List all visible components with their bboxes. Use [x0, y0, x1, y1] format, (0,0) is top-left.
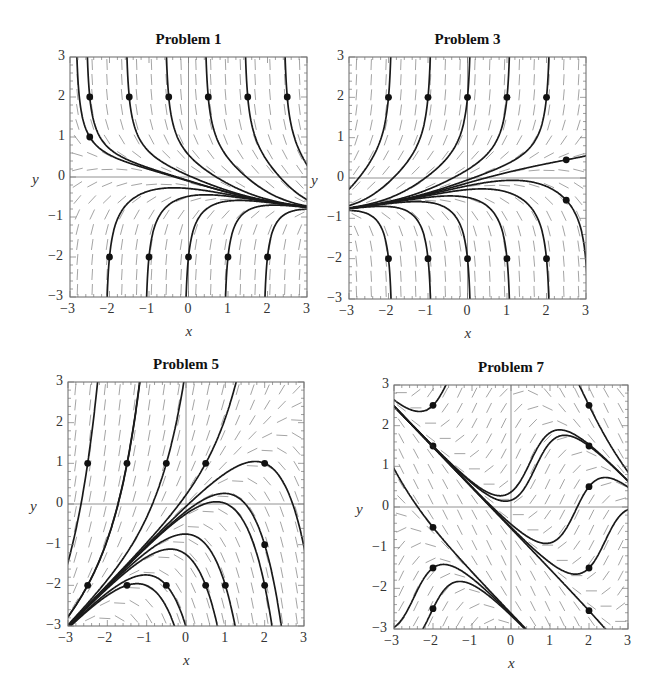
- slope-segment: [412, 389, 421, 396]
- slope-segment: [545, 479, 550, 489]
- slope-segment: [587, 572, 596, 579]
- initial-point: [430, 402, 437, 409]
- slope-segment: [399, 601, 404, 611]
- initial-point: [586, 402, 593, 409]
- slope-segment: [500, 389, 508, 397]
- slope-segment: [558, 450, 566, 458]
- slope-segment: [559, 404, 566, 412]
- slope-segment: [530, 617, 536, 626]
- slope-segment: [397, 495, 405, 503]
- slope-segment: [545, 449, 551, 458]
- slope-segment: [398, 419, 404, 428]
- slope-segment: [572, 452, 583, 455]
- slope-segment: [413, 449, 418, 459]
- slope-segment: [516, 586, 521, 596]
- slope-segment: [501, 586, 507, 595]
- slope-segment: [574, 541, 580, 550]
- y-tick-label: 1: [382, 457, 389, 473]
- slope-segment: [530, 495, 536, 504]
- slope-segment: [528, 390, 538, 395]
- slope-segment: [426, 558, 436, 563]
- slope-segment: [443, 479, 448, 489]
- slope-segment: [472, 540, 477, 550]
- slope-segment: [529, 511, 538, 518]
- slope-segment: [542, 422, 553, 425]
- slope-segment: [602, 495, 610, 503]
- slope-segment: [574, 525, 579, 535]
- slope-segment: [498, 620, 509, 623]
- slope-segment: [530, 571, 535, 581]
- slope-segment: [516, 449, 521, 459]
- slope-segment: [455, 588, 465, 593]
- slope-segment: [516, 556, 521, 566]
- slope-segment: [589, 495, 595, 504]
- slope-segment: [573, 465, 581, 473]
- x-tick-label: −2: [423, 633, 438, 649]
- slope-segment: [516, 571, 521, 581]
- slope-segment: [457, 403, 462, 413]
- slope-segment: [557, 421, 567, 426]
- slope-segment: [399, 556, 404, 566]
- slope-segment: [457, 510, 462, 520]
- slope-segment: [398, 541, 405, 549]
- slope-segment: [516, 433, 521, 443]
- slope-segment: [412, 511, 420, 519]
- slope-segment: [486, 571, 492, 580]
- slope-segment: [589, 525, 594, 535]
- slope-segment: [602, 618, 611, 625]
- slope-segment: [604, 403, 609, 413]
- slope-segment: [530, 601, 535, 611]
- slope-segment: [530, 479, 535, 489]
- slope-segment: [574, 602, 580, 611]
- slope-segment: [455, 435, 464, 442]
- slope-segment: [399, 434, 404, 444]
- initial-point: [586, 483, 593, 490]
- slope-segment: [545, 616, 550, 626]
- slope-segment: [396, 513, 407, 516]
- slope-segment: [442, 601, 447, 611]
- slope-segment: [559, 464, 565, 473]
- slope-segment: [618, 525, 624, 534]
- slope-segment: [414, 601, 419, 611]
- slope-segment: [604, 418, 609, 428]
- slope-segment: [501, 418, 506, 428]
- slope-segment: [560, 616, 565, 626]
- slope-segment: [513, 391, 524, 394]
- slope-segment: [486, 388, 492, 397]
- slope-segment: [589, 510, 594, 520]
- slope-segment: [413, 479, 418, 489]
- slope-segment: [588, 434, 595, 442]
- slope-segment: [514, 496, 523, 503]
- slope-segment: [603, 556, 608, 566]
- slope-segment: [589, 418, 594, 428]
- x-tick-label: 3: [624, 633, 631, 649]
- slope-segment: [399, 464, 404, 474]
- slope-segment: [574, 403, 579, 413]
- slope-segment: [545, 601, 550, 611]
- y-tick-label: −3: [372, 620, 387, 636]
- slope-segment: [440, 559, 451, 562]
- slope-segment: [487, 418, 492, 428]
- slope-segment: [618, 403, 623, 413]
- slope-segment: [457, 480, 463, 489]
- slope-segment: [530, 556, 536, 565]
- slope-segment: [618, 418, 623, 428]
- slope-segment: [499, 481, 508, 488]
- slope-segment: [618, 571, 623, 581]
- slope-segment: [501, 540, 506, 550]
- slope-segment: [529, 419, 537, 427]
- initial-point: [430, 565, 437, 572]
- slope-segment: [486, 525, 491, 535]
- slope-segment: [560, 494, 565, 504]
- slope-segment: [428, 510, 434, 519]
- slope-segment: [457, 617, 462, 627]
- slope-segment: [603, 388, 608, 398]
- slope-segment: [514, 404, 522, 412]
- slope-segment: [589, 388, 594, 398]
- slope-segment: [586, 467, 597, 470]
- slope-segment: [618, 540, 623, 550]
- slope-segment: [472, 403, 477, 413]
- slope-segment: [616, 603, 625, 610]
- slope-segment: [545, 495, 550, 505]
- slope-segment: [484, 605, 495, 608]
